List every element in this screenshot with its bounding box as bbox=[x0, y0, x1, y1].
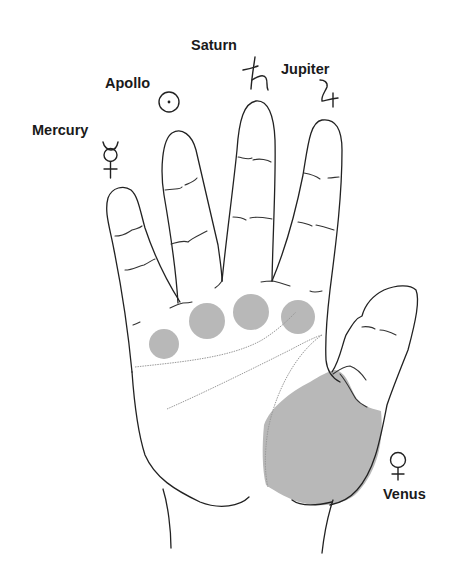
label-apollo: Apollo bbox=[105, 76, 150, 91]
venus-symbol-icon bbox=[391, 453, 406, 481]
saturn-symbol-icon bbox=[243, 57, 268, 90]
little-finger-base-crease bbox=[170, 302, 192, 308]
ring-finger-crease-upper bbox=[165, 178, 197, 190]
index-finger-crease-upper bbox=[304, 173, 339, 179]
middle-finger-crease-lower bbox=[233, 217, 272, 220]
middle-finger-base-crease bbox=[261, 281, 290, 286]
palm-edge-crease bbox=[133, 322, 140, 325]
index-finger-outline bbox=[272, 120, 342, 382]
sun-symbol-icon bbox=[159, 92, 179, 112]
label-mercury: Mercury bbox=[32, 123, 88, 138]
wrist-left-line bbox=[163, 489, 171, 548]
palm-left-outline bbox=[132, 372, 249, 506]
little-finger-crease-lower bbox=[125, 259, 155, 270]
mount-jupiter bbox=[281, 300, 315, 334]
jupiter-symbol-icon bbox=[320, 80, 338, 107]
ring-finger-crease-lower bbox=[171, 231, 207, 244]
ring-finger-base-crease bbox=[215, 281, 222, 288]
palmistry-diagram: Mercury Apollo Saturn Jupiter Venus bbox=[0, 0, 462, 576]
thumb-crease-upper bbox=[362, 327, 396, 335]
mount-saturn bbox=[233, 294, 269, 330]
index-finger-crease-lower bbox=[298, 222, 334, 230]
label-jupiter: Jupiter bbox=[281, 62, 329, 77]
middle-finger-outline bbox=[222, 101, 275, 281]
little-finger-crease-upper bbox=[115, 226, 142, 236]
label-saturn: Saturn bbox=[191, 38, 237, 53]
middle-finger-crease-upper bbox=[238, 157, 271, 162]
wrist-right-line bbox=[322, 500, 333, 553]
label-venus: Venus bbox=[383, 487, 426, 502]
mount-apollo bbox=[189, 303, 225, 339]
mount-mercury bbox=[149, 329, 179, 359]
ring-finger-outline bbox=[162, 131, 222, 303]
index-finger-base-crease bbox=[310, 291, 322, 292]
mercury-symbol-icon bbox=[103, 142, 118, 178]
